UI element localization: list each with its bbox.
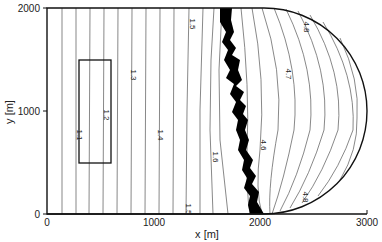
x-axis-title: x [m] [195,228,219,240]
x-axis: 0 1000 2000 3000 x [m] [44,210,378,240]
y-tick-0: 0 [34,209,40,220]
contour-label-1-3: 1.3 [129,69,138,81]
contour-label-1-5-top: 1.5 [188,18,197,30]
contour-label-1-2: 1.2 [102,109,111,121]
contour-label-1-6: 1.6 [211,151,220,163]
x-tick-3000: 3000 [356,217,379,228]
contour-label-1-4: 1.4 [156,129,165,141]
contour-label-4-7: 4.7 [284,68,293,80]
y-tick-1000: 1000 [18,106,41,117]
contour-label-4-8-top: 4.8 [302,21,311,33]
y-tick-2000: 2000 [18,3,41,14]
contour-chart: 2000 1000 0 y [m] 0 1000 2000 3000 x [m]… [0,0,382,242]
x-tick-2000: 2000 [249,217,272,228]
x-tick-1000: 1000 [143,217,166,228]
contour-lines-right [241,8,357,214]
y-axis: 2000 1000 0 y [m] [3,3,47,220]
contour-label-4-8-bottom: 4.8 [301,191,310,203]
x-tick-0: 0 [44,217,50,228]
contour-label-4-6: 4.6 [259,139,268,151]
domain-boundary [47,8,367,214]
contour-labels: 1.1 1.2 1.3 1.4 1.5 1.5 1.6 4.6 4.7 4.8 … [75,18,311,215]
contour-label-1-5-bottom: 1.5 [184,203,193,215]
contour-label-1-1: 1.1 [75,129,84,141]
contour-lines-left [62,8,228,214]
y-axis-title: y [m] [3,100,15,124]
